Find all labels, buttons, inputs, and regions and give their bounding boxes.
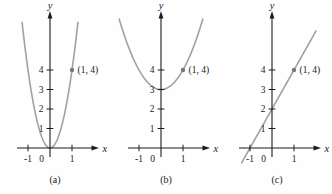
- y-axis-arrow-icon: [270, 11, 275, 19]
- caption-a: (a): [49, 174, 60, 186]
- y-tick-label: 4: [261, 65, 266, 75]
- y-axis-arrow-icon: [48, 11, 53, 19]
- x-tick-label: -1: [24, 154, 32, 164]
- y-tick-label: 2: [39, 104, 44, 114]
- figure-three-graphs: yx-1101234(1, 4)(a)yx-1101234(1, 4)(b)yx…: [0, 0, 332, 194]
- y-axis-label: y: [47, 0, 53, 11]
- point-label: (1, 4): [300, 65, 321, 76]
- y-tick-label: 2: [261, 104, 266, 114]
- x-tick-label: -1: [135, 154, 143, 164]
- y-tick-label: 4: [150, 65, 155, 75]
- x-tick-label: 1: [181, 154, 186, 164]
- y-tick-label: 2: [150, 104, 155, 114]
- point-label: (1, 4): [189, 65, 210, 76]
- y-axis-label: y: [269, 0, 275, 11]
- curve-c: [242, 31, 316, 163]
- x-axis-arrow-icon: [92, 146, 100, 151]
- y-axis-label: y: [158, 0, 164, 11]
- x-tick-label: 1: [70, 154, 75, 164]
- data-point: [181, 68, 185, 72]
- x-tick-label: -1: [246, 154, 254, 164]
- data-point: [70, 68, 74, 72]
- y-axis-arrow-icon: [159, 11, 164, 19]
- origin-label: 0: [39, 154, 44, 164]
- y-tick-label: 1: [261, 124, 266, 134]
- graph-a: yx-1101234(1, 4)(a): [0, 0, 110, 194]
- y-tick-label: 3: [261, 85, 266, 95]
- y-tick-label: 1: [39, 124, 44, 134]
- y-tick-label: 1: [150, 124, 155, 134]
- caption-c: (c): [271, 174, 282, 186]
- y-tick-label: 3: [39, 85, 44, 95]
- graph-b: yx-1101234(1, 4)(b): [111, 0, 221, 194]
- x-axis-label: x: [213, 143, 219, 154]
- x-tick-label: 1: [292, 154, 297, 164]
- caption-b: (b): [160, 174, 172, 186]
- y-tick-label: 4: [39, 65, 44, 75]
- graph-c: yx-1101234(1, 4)(c): [222, 0, 332, 194]
- x-axis-label: x: [324, 143, 330, 154]
- data-point: [292, 68, 296, 72]
- origin-label: 0: [261, 154, 266, 164]
- x-axis-arrow-icon: [203, 146, 211, 151]
- x-axis-arrow-icon: [314, 146, 322, 151]
- point-label: (1, 4): [78, 65, 99, 76]
- x-axis-label: x: [102, 143, 108, 154]
- y-tick-label: 3: [150, 85, 155, 95]
- origin-label: 0: [150, 154, 155, 164]
